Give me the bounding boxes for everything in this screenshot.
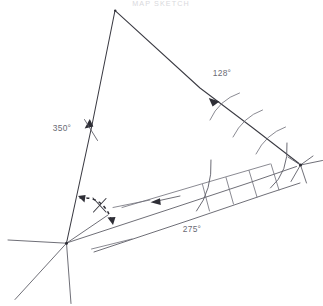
bearing-label-275: 275° — [183, 224, 202, 234]
station-vertex — [8, 215, 108, 304]
survey-sketch-svg: MAP SKETCH 350° 128° — [0, 0, 323, 306]
east-ray-s — [301, 165, 307, 183]
bearing-label-350: 350° — [53, 123, 72, 133]
ladder-hatching — [203, 164, 280, 211]
station-ray-s — [67, 243, 72, 303]
ladder-tick-curve-1 — [197, 160, 212, 211]
east-station-vertex — [288, 156, 323, 183]
east-station-point — [299, 163, 302, 166]
lower-leg-tick-lower — [92, 239, 133, 249]
interior-angle-arc — [78, 195, 116, 225]
bearing-label-128: 128° — [213, 68, 232, 78]
angle-arc-arrowhead-start — [78, 195, 86, 203]
diagram-canvas: MAP SKETCH 350° 128° — [0, 0, 323, 306]
station-ray-ne — [67, 215, 109, 243]
left-leg-350 — [67, 11, 116, 244]
ladder-rung — [249, 171, 257, 198]
lower-leg-275 — [67, 143, 301, 252]
upper-right-leg-128 — [115, 11, 299, 164]
ladder-rail-lower — [94, 183, 300, 252]
ladder-tick-curve-2 — [271, 143, 288, 188]
apex-point — [114, 9, 116, 11]
lower-leg-tick-upper — [113, 200, 150, 208]
ladder-rail-upper — [67, 167, 297, 244]
ladder-rung — [226, 178, 234, 205]
apex-vertex — [114, 9, 116, 11]
sketch-title: MAP SKETCH — [132, 0, 190, 8]
angle-arc-arrowhead-end — [108, 217, 116, 225]
east-ray-nw — [288, 157, 301, 165]
station-ray-sw — [15, 243, 67, 299]
station-ray-w — [8, 240, 67, 243]
station-point — [65, 242, 68, 245]
